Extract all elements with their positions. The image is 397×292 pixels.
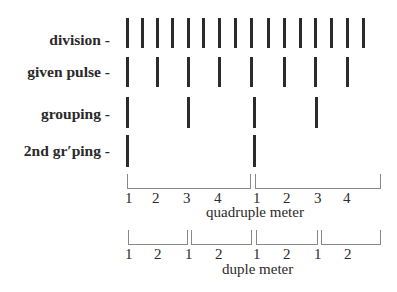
division-bar: [362, 18, 365, 48]
quadruple-bracket: [255, 174, 381, 189]
given-pulse-bar: [187, 57, 190, 87]
grouping-bar: [253, 97, 256, 128]
label-given-pulse: given pulse -: [27, 64, 110, 80]
division-bar: [299, 18, 302, 48]
quadruple-beat-number: 3: [183, 191, 191, 206]
duple-meter-caption: duple meter: [222, 262, 293, 277]
division-bar: [314, 18, 317, 48]
division-bar: [283, 18, 286, 48]
label-division: division -: [49, 32, 110, 48]
quadruple-meter-caption: quadruple meter: [206, 205, 304, 220]
division-bar: [218, 18, 221, 48]
duple-bracket: [321, 230, 381, 245]
division-bar: [141, 18, 144, 48]
division-bar: [234, 18, 237, 48]
given-pulse-bar: [126, 57, 129, 87]
duple-beat-number: 1: [185, 247, 193, 262]
quadruple-beat-number: 1: [125, 191, 133, 206]
grouping-bar: [315, 97, 318, 128]
duple-beat-number: 2: [154, 247, 162, 262]
division-bar: [126, 18, 129, 48]
duple-bracket: [191, 230, 252, 245]
duple-beat-number: 2: [215, 247, 223, 262]
duple-beat-number: 1: [253, 247, 261, 262]
quadruple-beat-number: 4: [343, 191, 351, 206]
second-grouping-bar: [253, 135, 256, 167]
division-bar: [187, 18, 190, 48]
given-pulse-bar: [156, 57, 159, 87]
given-pulse-bar: [283, 57, 286, 87]
label-second-grouping: 2nd gr′ping -: [24, 143, 110, 159]
duple-beat-number: 1: [314, 247, 322, 262]
grouping-bar: [187, 97, 190, 128]
duple-beat-number: 2: [283, 247, 291, 262]
division-bar: [156, 18, 159, 48]
division-bar: [346, 18, 349, 48]
given-pulse-bar: [314, 57, 317, 87]
division-bar: [202, 18, 205, 48]
given-pulse-bar: [346, 57, 349, 87]
quadruple-bracket: [127, 174, 251, 189]
division-bar: [330, 18, 333, 48]
quadruple-beat-number: 2: [152, 191, 160, 206]
label-grouping: grouping -: [41, 106, 110, 122]
quadruple-beat-number: 3: [314, 191, 322, 206]
division-bar: [267, 18, 270, 48]
given-pulse-bar: [218, 57, 221, 87]
given-pulse-bar: [250, 57, 253, 87]
division-bar: [250, 18, 253, 48]
grouping-bar: [126, 97, 129, 128]
duple-beat-number: 1: [125, 247, 133, 262]
duple-bracket: [256, 230, 318, 245]
duple-bracket: [128, 230, 188, 245]
second-grouping-bar: [126, 135, 129, 167]
division-bar: [171, 18, 174, 48]
duple-beat-number: 2: [344, 247, 352, 262]
